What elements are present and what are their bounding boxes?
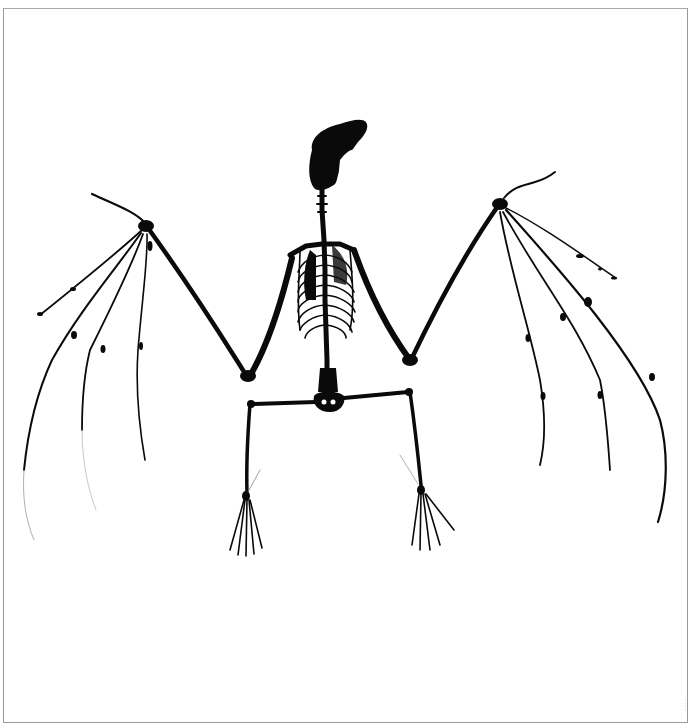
right-forearm (410, 206, 498, 362)
left-forearm (148, 228, 248, 378)
right-humerus (354, 250, 410, 360)
spine (322, 188, 327, 385)
left-wing-digits (23, 230, 147, 540)
right-leg (344, 392, 421, 485)
skull (309, 120, 367, 190)
bat-skeleton-image (0, 0, 690, 723)
pelvis (314, 368, 345, 412)
right-foot (400, 455, 454, 550)
photo-caption: · · · · (681, 650, 689, 710)
left-humerus (250, 258, 292, 376)
left-leg (247, 402, 316, 492)
